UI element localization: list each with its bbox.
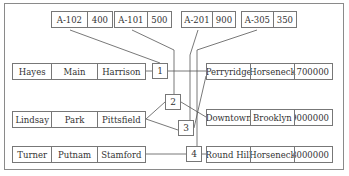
branch-name: Round Hill: [207, 147, 251, 162]
branch-name: Downtown: [207, 110, 251, 125]
branch-assets: 9000000: [295, 110, 332, 125]
link-node-1: 1: [152, 63, 168, 79]
customer-city: Harrison: [98, 64, 145, 79]
account-id: A-201: [182, 12, 213, 27]
line-lindsay-to-2: [146, 102, 165, 119]
branch-city: Horseneck: [251, 147, 294, 162]
line-2-to-downtown: [181, 102, 206, 117]
customer-street: Park: [52, 112, 97, 127]
line-lindsay-to-3: [146, 119, 178, 130]
branch-city: Brooklyn: [251, 110, 294, 125]
account-id: A-102: [52, 12, 88, 27]
branch-record-downtown: Downtown Brooklyn 9000000: [206, 109, 333, 126]
branch-name: Perryridge: [207, 64, 251, 79]
branch-assets: 1700000: [295, 64, 332, 79]
branch-city: Horseneck: [251, 64, 294, 79]
line-a101-upper: [132, 30, 174, 50]
link-node-2: 2: [165, 94, 181, 110]
customer-name: Lindsay: [13, 112, 52, 127]
line-a102-to-1: [70, 30, 160, 63]
customer-record-lindsay: Lindsay Park Pittsfield: [12, 111, 146, 128]
customer-record-turner: Turner Putnam Stamford: [12, 146, 146, 163]
account-balance: 500: [148, 12, 171, 27]
account-record-a102: A-102 400: [51, 11, 113, 28]
account-id: A-305: [242, 12, 274, 27]
customer-street: Main: [52, 64, 97, 79]
branch-record-round-hill: Round Hill Horseneck 8000000: [206, 146, 333, 163]
account-record-a201: A-201 900: [181, 11, 236, 28]
customer-name: Turner: [13, 147, 52, 162]
account-record-a101: A-101 500: [114, 11, 172, 28]
link-node-3: 3: [178, 120, 194, 136]
link-node-4: 4: [186, 146, 202, 162]
branch-assets: 8000000: [295, 147, 332, 162]
customer-record-hayes: Hayes Main Harrison: [12, 63, 146, 80]
customer-street: Putnam: [52, 147, 97, 162]
customer-city: Pittsfield: [98, 112, 145, 127]
branch-record-perryridge: Perryridge Horseneck 1700000: [206, 63, 333, 80]
account-balance: 900: [213, 12, 235, 27]
customer-city: Stamford: [98, 147, 145, 162]
line-3-to-perryridge: [194, 76, 206, 128]
account-balance: 400: [88, 12, 112, 27]
account-record-a305: A-305 350: [241, 11, 297, 28]
line-a305-upper: [197, 30, 257, 50]
customer-name: Hayes: [13, 64, 52, 79]
account-balance: 350: [274, 12, 296, 27]
account-id: A-101: [115, 12, 148, 27]
